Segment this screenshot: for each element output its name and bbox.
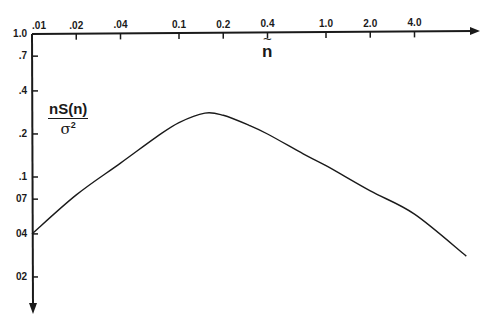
- spectrum-chart: [0, 0, 492, 324]
- x-tick-label: 0.1: [172, 20, 186, 30]
- y-axis-numerator: nS(n): [48, 100, 88, 119]
- y-tick-label: 1.0: [1, 29, 27, 39]
- x-tick-label: .01: [32, 21, 46, 31]
- x-tick-label: 1.0: [319, 19, 333, 29]
- exponent: 2: [71, 120, 76, 130]
- y-tick-label: .1: [1, 172, 27, 182]
- x-axis-arrow-icon: [470, 27, 480, 35]
- x-tick-label: 4.0: [408, 18, 422, 28]
- y-axis-arrow-icon: [29, 303, 37, 314]
- y-tick-label: 07: [1, 194, 27, 204]
- x-tick-label: .02: [69, 21, 83, 31]
- sigma-symbol: σ: [61, 120, 71, 138]
- y-tick-label: .2: [1, 129, 27, 139]
- y-tick-label: 04: [1, 229, 27, 239]
- x-tick-label: 0.2: [216, 20, 230, 30]
- y-axis-denominator: σ2: [48, 120, 88, 138]
- x-tick-label: 2.0: [363, 19, 377, 29]
- x-axis: [32, 31, 474, 34]
- y-axis-title: nS(n) σ2: [48, 100, 88, 138]
- x-tick-label: 0.4: [261, 19, 275, 29]
- x-axis-tilde: ~: [263, 30, 272, 47]
- y-tick-label: 02: [1, 272, 27, 282]
- y-tick-label: .7: [1, 51, 27, 61]
- y-axis: [32, 34, 33, 306]
- x-axis-title: ~ n: [262, 42, 272, 62]
- x-tick-label: .04: [114, 20, 128, 30]
- spectrum-curve: [32, 113, 466, 256]
- y-tick-label: .4: [1, 86, 27, 96]
